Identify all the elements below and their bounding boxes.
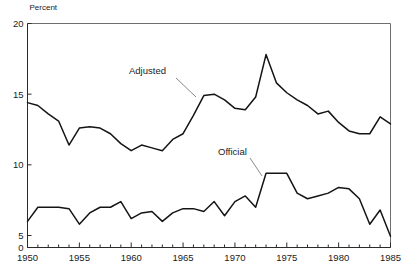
y-tick-label: 15 [13, 89, 24, 100]
x-tick-label: 1950 [17, 252, 38, 263]
series-label-adjusted: Adjusted [129, 65, 166, 76]
plot-frame-border [28, 24, 391, 248]
x-tick-label: 1980 [328, 252, 349, 263]
y-tick-label: 20 [13, 18, 24, 29]
series-line-adjusted [28, 55, 391, 151]
chart-container: 05101520 1950195519601965197019751980198… [0, 0, 411, 277]
x-axis-major-ticks [28, 243, 391, 248]
y-axis-unit-label: Percent [30, 3, 58, 12]
x-tick-label: 1975 [276, 252, 297, 263]
series-leader-line-official [250, 158, 262, 176]
x-tick-label: 1985 [380, 252, 401, 263]
y-tick-label: 5 [18, 230, 23, 241]
line-chart: 05101520 1950195519601965197019751980198… [0, 0, 411, 277]
y-axis-tick-labels: 05101520 [13, 18, 24, 253]
x-tick-label: 1955 [69, 252, 90, 263]
y-tick-label: 10 [13, 159, 24, 170]
series-line-official [28, 173, 391, 236]
x-tick-label: 1970 [224, 252, 245, 263]
plot-frame [28, 24, 391, 248]
data-series-group [28, 55, 391, 237]
series-leader-line-adjusted [176, 78, 196, 97]
series-label-official: Official [218, 146, 247, 157]
y-axis-ticks [28, 24, 32, 248]
x-tick-label: 1960 [121, 252, 142, 263]
x-axis-tick-labels: 19501955196019651970197519801985 [17, 252, 401, 263]
series-annotations: AdjustedOfficial [129, 65, 262, 176]
x-tick-label: 1965 [173, 252, 194, 263]
